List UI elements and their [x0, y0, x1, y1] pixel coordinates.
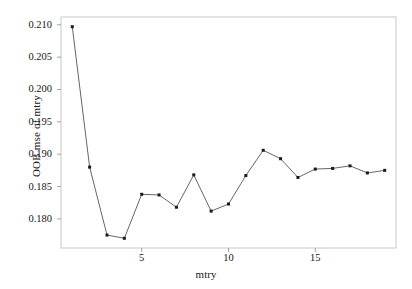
data-point [279, 157, 282, 160]
data-point [227, 203, 230, 206]
y-axis-tick-label: 0.195 [28, 117, 52, 127]
y-axis-tick-label: 0.180 [28, 214, 52, 224]
data-point [296, 176, 299, 179]
data-point [192, 173, 195, 176]
data-point [175, 206, 178, 209]
data-point [349, 164, 352, 167]
x-axis-label: mtry [0, 268, 412, 280]
data-point [331, 167, 334, 170]
y-axis-tick-label: 0.185 [28, 182, 52, 192]
plot-frame [61, 17, 396, 248]
data-point [71, 25, 74, 28]
data-point [158, 193, 161, 196]
y-axis-tick-label: 0.200 [28, 84, 52, 94]
x-axis-tick-label: 5 [139, 253, 144, 263]
data-point [88, 166, 91, 169]
data-point [140, 193, 143, 196]
data-point [314, 168, 317, 171]
data-point [123, 237, 126, 240]
plot-area [0, 0, 412, 289]
y-axis-ticks [57, 25, 61, 219]
data-point [210, 210, 213, 213]
data-point [383, 169, 386, 172]
data-point [106, 234, 109, 237]
x-axis-tick-label: 10 [223, 253, 234, 263]
y-axis-tick-label: 0.190 [28, 149, 52, 159]
chart-figure: OOB mse of mtry 0.1800.1850.1900.1950.20… [0, 0, 412, 289]
data-point [366, 171, 369, 174]
y-axis-tick-labels: 0.1800.1850.1900.1950.2000.2050.210 [0, 0, 52, 289]
data-point [262, 149, 265, 152]
data-point [244, 174, 247, 177]
y-axis-tick-label: 0.210 [28, 20, 52, 30]
y-axis-tick-label: 0.205 [28, 52, 52, 62]
x-axis-tick-label: 15 [310, 253, 321, 263]
